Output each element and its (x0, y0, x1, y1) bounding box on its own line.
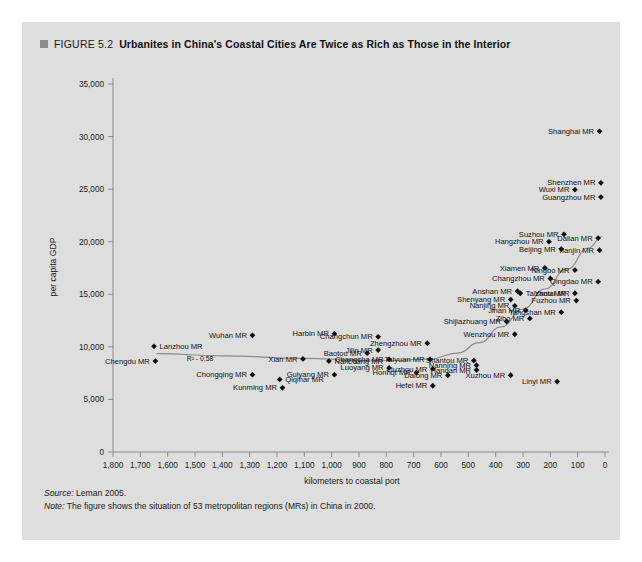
diamond-marker (573, 298, 579, 304)
y-tick-label: 0 (99, 448, 104, 457)
point-label: Hefei MR (396, 381, 428, 390)
diamond-marker (471, 358, 477, 364)
diamond-marker (554, 379, 560, 385)
r-squared-text: R² - 0.58 (187, 355, 214, 362)
data-point: Guangzhou MR (542, 193, 604, 202)
figure-panel: FIGURE 5.2 Urbanites in China's Coastal … (22, 22, 620, 540)
x-axis-label: kilometers to coastal port (304, 476, 400, 486)
point-label: Dalong MR (404, 371, 442, 380)
x-tick-label: 1,000 (321, 461, 342, 470)
diamond-marker (598, 194, 604, 200)
x-tick-label: 1,700 (130, 461, 151, 470)
r-squared-annotation: R² - 0.58 (187, 355, 214, 362)
point-label: Qiqihar MR (285, 375, 324, 384)
x-tick-label: 1,100 (294, 461, 315, 470)
x-tick-label: 200 (543, 461, 557, 470)
data-point: Wenzhou MR (463, 330, 517, 339)
y-tick-label: 30,000 (79, 133, 104, 142)
y-axis-label: per capita GDP (48, 237, 58, 296)
diamond-marker (508, 372, 514, 378)
y-tick-label: 25,000 (79, 185, 104, 194)
diamond-marker (512, 331, 518, 337)
data-point: Chongqing MR (196, 370, 255, 379)
point-label: Zibo MR (496, 314, 525, 323)
x-tick-label: 1,400 (212, 461, 233, 470)
y-axis: 05,00010,00015,00020,00025,00030,00035,0… (79, 78, 113, 457)
data-point: Tianjin MR (558, 246, 602, 255)
diamond-marker (151, 343, 157, 349)
x-tick-label: 1,600 (157, 461, 178, 470)
diamond-marker (572, 290, 578, 296)
point-label: Qingdao MR (550, 277, 593, 286)
data-point: Xuzhou MR (466, 371, 514, 380)
point-label: Wuhan MR (209, 331, 247, 340)
scatter-plot: 05,00010,00015,00020,00025,00030,00035,0… (22, 22, 620, 540)
diamond-marker (597, 128, 603, 134)
data-point: Qiqihar MR (277, 375, 324, 384)
diamond-marker (430, 383, 436, 389)
data-point: Kunming MR (233, 383, 285, 392)
point-label: Beijing MR (519, 245, 556, 254)
x-tick-label: 1,200 (267, 461, 288, 470)
note-line: Note: The figure shows the situation of … (44, 500, 375, 512)
diamond-marker (375, 347, 381, 353)
source-line: Source: Leman 2005. (44, 487, 375, 499)
source-text: Leman 2005. (74, 488, 127, 498)
point-label: Dalian MR (557, 234, 593, 243)
x-tick-label: 600 (434, 461, 448, 470)
diamond-marker (300, 356, 306, 362)
x-tick-label: 500 (461, 461, 475, 470)
diamond-marker (280, 385, 286, 391)
diamond-marker (558, 309, 564, 315)
diamond-marker (595, 279, 601, 285)
data-point: Changzhou MR (492, 274, 553, 283)
x-tick-label: 900 (352, 461, 366, 470)
x-tick-label: 700 (407, 461, 421, 470)
diamond-marker (152, 358, 158, 364)
data-point: Zhengzhou MR (370, 339, 430, 348)
data-points: Shanghai MRShenzhen MRWuxi MRGuangzhou M… (105, 127, 604, 393)
data-point: Dalian MR (557, 234, 601, 243)
diamond-marker (597, 247, 603, 253)
data-point: Fuzhou MR (532, 296, 580, 305)
point-label: Xian MR (268, 355, 298, 364)
x-tick-label: 1,800 (103, 461, 124, 470)
point-label: Guangzhou MR (542, 193, 596, 202)
x-tick-label: 100 (571, 461, 585, 470)
point-label: Fuzhou MR (532, 296, 572, 305)
y-tick-label: 35,000 (79, 80, 104, 89)
diamond-marker (424, 340, 430, 346)
point-label: Wenzhou MR (463, 330, 509, 339)
x-tick-label: 300 (516, 461, 530, 470)
diamond-marker (277, 377, 283, 383)
point-label: Chengdu MR (105, 357, 150, 366)
point-label: Taiyuan MR (384, 355, 425, 364)
point-label: Kunming MR (233, 383, 277, 392)
data-point: Linyi MR (522, 377, 560, 386)
chart-canvas: 05,00010,00015,00020,00025,00030,00035,0… (22, 22, 620, 492)
point-label: Changchun MR (320, 332, 373, 341)
diamond-marker (250, 332, 256, 338)
point-label: Changzhou MR (492, 274, 545, 283)
source-label: Source: (44, 488, 74, 498)
x-tick-label: 1,300 (239, 461, 260, 470)
data-point: Hefei MR (396, 381, 436, 390)
point-label: Chongqing MR (196, 370, 247, 379)
point-label: Shanghai MR (548, 127, 595, 136)
point-label: Zhengzhou MR (370, 339, 422, 348)
x-tick-label: 400 (489, 461, 503, 470)
data-point: Chengdu MR (105, 357, 158, 366)
data-point: Lanzhou MR (151, 342, 203, 351)
data-point: Qingdao MR (550, 277, 601, 286)
y-tick-label: 10,000 (79, 343, 104, 352)
point-label: Lanzhou MR (160, 342, 204, 351)
point-label: Tianjin MR (558, 246, 595, 255)
data-point: Xian MR (268, 355, 306, 364)
x-tick-label: 1,500 (185, 461, 206, 470)
diamond-marker (572, 267, 578, 273)
diamond-marker (332, 372, 338, 378)
footnotes: Source: Leman 2005. Note: The figure sho… (44, 487, 375, 512)
x-axis: 1,8001,7001,6001,5001,4001,3001,2001,100… (103, 452, 609, 470)
y-tick-label: 5,000 (84, 395, 105, 404)
x-tick-label: 800 (379, 461, 393, 470)
